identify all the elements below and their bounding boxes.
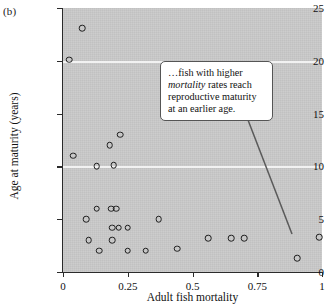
annotation-callout: …fish with higher mortality rates reach … — [160, 61, 273, 121]
data-point — [228, 235, 235, 242]
y-tick-mark — [57, 8, 62, 9]
data-point — [316, 234, 323, 241]
x-tick-mark — [128, 272, 129, 277]
data-point — [124, 248, 131, 255]
x-tick-mark — [257, 272, 258, 277]
data-point — [96, 248, 103, 255]
y-tick-label: 5 — [272, 213, 324, 225]
data-point — [106, 142, 113, 149]
y-tick-mark — [57, 61, 62, 62]
plot-area — [63, 8, 322, 272]
annotation-emphasis: mortality — [168, 79, 205, 90]
y-tick-mark — [57, 219, 62, 220]
data-point — [86, 237, 93, 244]
data-point — [66, 56, 73, 63]
data-point — [93, 205, 100, 212]
data-point — [110, 162, 117, 169]
x-tick-mark — [63, 272, 64, 277]
data-point — [294, 255, 301, 262]
annotation-text: …fish with higher — [168, 67, 243, 78]
data-point — [113, 205, 120, 212]
data-point — [124, 224, 131, 231]
x-tick-mark — [193, 272, 194, 277]
y-tick-mark — [57, 114, 62, 115]
y-tick-label: 0 — [272, 266, 324, 278]
data-point — [174, 245, 181, 252]
y-tick-mark — [57, 166, 62, 167]
data-point — [205, 235, 212, 242]
data-point — [143, 248, 150, 255]
data-point — [241, 235, 248, 242]
data-point — [117, 131, 124, 138]
data-point — [156, 216, 163, 223]
y-tick-label: 15 — [272, 108, 324, 120]
x-axis-title: Adult fish mortality — [63, 291, 322, 303]
y-tick-mark — [57, 272, 62, 273]
data-point — [83, 216, 90, 223]
data-point — [115, 224, 122, 231]
data-point — [93, 163, 100, 170]
data-point — [109, 237, 116, 244]
y-tick-label: 10 — [272, 160, 324, 172]
data-point — [70, 153, 77, 160]
y-axis-title: Age at maturity (years) — [8, 46, 20, 246]
panel-label: (b) — [3, 5, 16, 17]
plot-texture — [63, 8, 322, 272]
y-axis-line — [62, 8, 63, 273]
y-tick-label: 25 — [272, 2, 324, 14]
y-tick-label: 20 — [272, 55, 324, 67]
x-tick-mark — [322, 272, 323, 277]
data-point — [79, 25, 86, 32]
